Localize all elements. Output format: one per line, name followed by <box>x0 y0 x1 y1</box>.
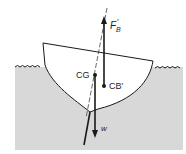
weight-label: w <box>101 125 107 133</box>
cb-label: CB′ <box>109 82 123 91</box>
buoyant-force-subscript: B <box>116 26 121 33</box>
center-of-buoyancy-dot <box>102 84 106 88</box>
buoyant-force-arrowhead <box>101 16 107 24</box>
buoyant-force-prime: ′ <box>117 17 119 26</box>
wave-left <box>15 66 40 68</box>
boat-diagram <box>0 0 186 154</box>
buoyant-force-label: FB′ <box>110 18 118 33</box>
cg-label: CG <box>76 71 90 80</box>
center-of-gravity-dot <box>93 73 97 77</box>
